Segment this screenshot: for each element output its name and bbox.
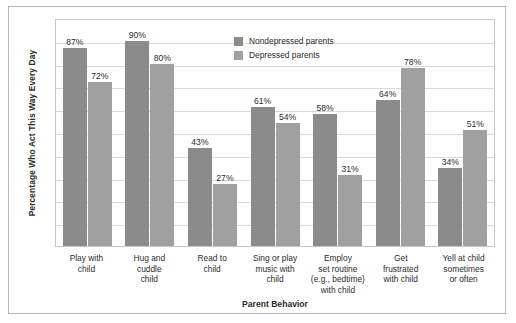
bar-nondep[interactable]: 43%	[188, 20, 212, 246]
bar-value-label: 72%	[91, 71, 108, 81]
bar-value-label: 64%	[379, 89, 396, 99]
bar-value-label: 58%	[316, 103, 333, 113]
y-axis-title-text: Percentage Who Act This Way Every Day	[27, 50, 37, 216]
bar-rect[interactable]	[313, 114, 337, 246]
x-axis-category-label: Read tochild	[181, 253, 244, 295]
legend-swatch	[234, 51, 243, 60]
bar-rect[interactable]	[188, 148, 212, 246]
bar-value-label: 43%	[191, 137, 208, 147]
bar-value-label: 27%	[216, 173, 233, 183]
bar-rect[interactable]	[438, 168, 462, 246]
x-axis-category-label: Play withchild	[55, 253, 118, 295]
bar-rect[interactable]	[401, 68, 425, 246]
bar-nondep[interactable]: 64%	[376, 20, 400, 246]
bar-dep[interactable]: 78%	[401, 20, 425, 246]
bar-group: 87%72%	[56, 20, 119, 246]
chart-figure: Percentage Who Act This Way Every Day 87…	[8, 6, 506, 314]
bar-nondep[interactable]: 90%	[125, 20, 149, 246]
bar-value-label: 31%	[341, 164, 358, 174]
chart-legend: Nondepressed parentsDepressed parents	[234, 36, 334, 60]
bar-rect[interactable]	[213, 184, 237, 246]
x-axis-category-labels: Play withchildHug andcuddlechildRead toc…	[55, 253, 495, 295]
bar-value-label: 90%	[129, 30, 146, 40]
bar-rect[interactable]	[376, 100, 400, 246]
bar-rect[interactable]	[63, 48, 87, 246]
bar-group: 64%78%	[369, 20, 432, 246]
bar-group: 90%80%	[119, 20, 182, 246]
bar-value-label: 87%	[66, 37, 83, 47]
bar-value-label: 78%	[404, 57, 421, 67]
bar-nondep[interactable]: 87%	[63, 20, 87, 246]
x-axis-category-label: Hug andcuddlechild	[118, 253, 181, 295]
legend-item[interactable]: Depressed parents	[234, 50, 334, 60]
legend-label: Nondepressed parents	[249, 36, 334, 46]
bar-rect[interactable]	[125, 41, 149, 246]
bar-dep[interactable]: 51%	[463, 20, 487, 246]
x-axis-category-label: Sing or playmusic withchild	[244, 253, 307, 295]
bar-dep[interactable]: 80%	[150, 20, 174, 246]
bar-value-label: 51%	[467, 119, 484, 129]
legend-label: Depressed parents	[249, 50, 320, 60]
bar-value-label: 34%	[442, 157, 459, 167]
plot-area: 87%72%90%80%43%27%61%54%58%31%64%78%34%5…	[55, 19, 495, 247]
bar-rect[interactable]	[463, 130, 487, 246]
bar-rect[interactable]	[251, 107, 275, 246]
bar-nondep[interactable]: 34%	[438, 20, 462, 246]
bar-rect[interactable]	[338, 175, 362, 246]
x-axis-category-label: Getfrustratedwith child	[369, 253, 432, 295]
bar-dep[interactable]: 31%	[338, 20, 362, 246]
x-axis-category-label: Employset routine(e.g., bedtime)with chi…	[306, 253, 369, 295]
bar-rect[interactable]	[276, 123, 300, 246]
bar-dep[interactable]: 72%	[88, 20, 112, 246]
bar-group: 34%51%	[431, 20, 494, 246]
legend-swatch	[234, 37, 243, 46]
bar-value-label: 54%	[279, 112, 296, 122]
x-axis-title: Parent Behavior	[55, 299, 495, 309]
bar-rect[interactable]	[150, 64, 174, 246]
x-axis-category-label: Yell at childsometimesor often	[432, 253, 495, 295]
legend-item[interactable]: Nondepressed parents	[234, 36, 334, 46]
y-axis-title: Percentage Who Act This Way Every Day	[25, 19, 39, 247]
bar-value-label: 80%	[154, 53, 171, 63]
bar-rect[interactable]	[88, 82, 112, 246]
bar-value-label: 61%	[254, 96, 271, 106]
